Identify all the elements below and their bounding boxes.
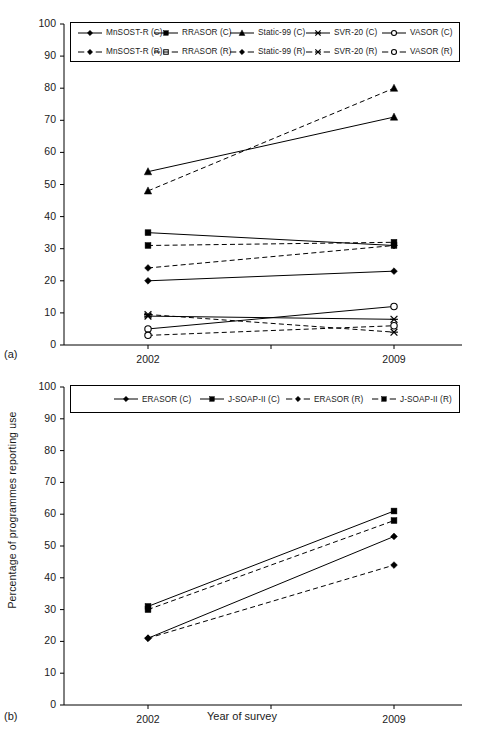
legend-symbol-square-open	[153, 46, 179, 58]
data-point-circle	[392, 30, 397, 35]
legend-label: J-SOAP-II (C)	[228, 395, 280, 404]
series-line-mnsost-r-c	[148, 271, 394, 281]
legend-symbol-triangle	[229, 27, 255, 39]
data-point-diamond	[145, 635, 152, 642]
data-point-circle	[145, 332, 151, 338]
data-point-square	[391, 239, 397, 245]
legend-symbol-cross	[305, 46, 331, 58]
data-point-diamond	[239, 49, 244, 54]
series-line-j-soap-ii-c	[148, 511, 394, 606]
legend-item-svr-20-c: SVR-20 (C)	[305, 27, 381, 39]
data-point-triangle	[390, 84, 397, 91]
data-point-square-open	[164, 49, 169, 54]
series-line-static-99-r	[148, 88, 394, 191]
legend-item-static-99-r: Static-99 (R)	[229, 46, 305, 58]
panel-b-legend: ERASOR (C)J-SOAP-II (C)ERASOR (R)J-SOAP-…	[70, 385, 460, 413]
series-line-vasor-r	[148, 326, 394, 336]
legend-item-j-soap-ii-r: J-SOAP-II (R)	[371, 393, 457, 405]
panel-a-tag: (a)	[4, 348, 17, 360]
data-point-diamond	[123, 396, 128, 401]
data-point-diamond	[145, 277, 152, 284]
series-line-mnsost-r-r	[148, 245, 394, 267]
legend-item-mnsost-r-r: MnSOST-R (R)	[77, 46, 153, 58]
legend-item-j-soap-ii-c: J-SOAP-II (C)	[199, 393, 285, 405]
legend-label: VASOR (C)	[410, 28, 453, 37]
legend-symbol-diamond	[229, 46, 255, 58]
series-line-static-99-c	[148, 117, 394, 172]
legend-symbol-square	[371, 393, 397, 405]
legend-item-rrasor-c: RRASOR (C)	[153, 27, 229, 39]
legend-item-svr-20-r: SVR-20 (R)	[305, 46, 381, 58]
data-point-circle	[391, 323, 397, 329]
data-point-square	[391, 518, 397, 524]
data-point-triangle	[144, 187, 151, 194]
data-point-circle	[145, 326, 151, 332]
series-line-erasor-c	[148, 536, 394, 638]
legend-label: RRASOR (R)	[182, 47, 232, 56]
data-point-circle	[391, 303, 397, 309]
legend-item-erasor-r: ERASOR (R)	[285, 393, 371, 405]
data-point-diamond	[145, 265, 152, 272]
data-point-square	[145, 230, 151, 236]
data-point-square	[210, 397, 215, 402]
data-point-diamond	[295, 396, 300, 401]
legend-symbol-square	[153, 27, 179, 39]
data-point-cross	[390, 329, 398, 336]
legend-symbol-cross	[305, 27, 331, 39]
legend-row: MnSOST-R (C)RRASOR (C)Static-99 (C)SVR-2…	[71, 23, 459, 42]
data-point-diamond	[87, 30, 92, 35]
data-point-cross	[390, 316, 398, 323]
legend-item-static-99-c: Static-99 (C)	[229, 27, 305, 39]
legend-item-mnsost-r-c: MnSOST-R (C)	[77, 27, 153, 39]
data-point-diamond	[87, 49, 92, 54]
legend-label: RRASOR (C)	[182, 28, 232, 37]
data-point-square	[145, 243, 151, 249]
legend-symbol-diamond	[285, 393, 311, 405]
legend-symbol-diamond	[77, 46, 103, 58]
figure-root: Percentage of programmes reporting use 0…	[0, 0, 484, 735]
legend-label: Static-99 (R)	[258, 47, 305, 56]
legend-label: ERASOR (C)	[142, 395, 191, 404]
data-point-square	[164, 30, 169, 35]
chart-panel-a: Percentage of programmes reporting use 0…	[0, 0, 484, 370]
legend-item-erasor-c: ERASOR (C)	[113, 393, 199, 405]
legend-label: SVR-20 (R)	[334, 47, 377, 56]
legend-label: J-SOAP-II (R)	[400, 395, 452, 404]
legend-symbol-square	[199, 393, 225, 405]
data-point-diamond	[391, 268, 398, 275]
legend-row: ERASOR (C)J-SOAP-II (C)ERASOR (R)J-SOAP-…	[71, 386, 459, 412]
data-point-circle	[392, 49, 397, 54]
series-line-svr-20-r	[148, 315, 394, 333]
x-axis-title: Year of survey	[0, 710, 484, 722]
legend-symbol-diamond	[113, 393, 139, 405]
data-point-diamond	[391, 562, 398, 569]
legend-item-vasor-c: VASOR (C)	[381, 27, 457, 39]
data-point-diamond	[391, 533, 398, 540]
data-point-cross	[315, 30, 321, 35]
series-line-vasor-c	[148, 306, 394, 328]
data-point-cross	[315, 49, 321, 54]
series-line-erasor-r	[148, 565, 394, 638]
legend-label: VASOR (R)	[410, 47, 453, 56]
legend-row: MnSOST-R (R)RRASOR (R)Static-99 (R)SVR-2…	[71, 42, 459, 61]
legend-item-rrasor-r: RRASOR (R)	[153, 46, 229, 58]
legend-label: Static-99 (C)	[258, 28, 305, 37]
data-point-square	[382, 397, 387, 402]
panel-b-plot-area	[0, 365, 484, 735]
chart-panel-b: Percentage of programmes reporting use 0…	[0, 365, 484, 735]
legend-item-vasor-r: VASOR (R)	[381, 46, 457, 58]
legend-label: SVR-20 (C)	[334, 28, 377, 37]
panel-a-legend: MnSOST-R (C)RRASOR (C)Static-99 (C)SVR-2…	[70, 22, 460, 62]
axis-lines	[64, 24, 462, 345]
legend-symbol-circle	[381, 46, 407, 58]
data-point-triangle	[390, 113, 397, 120]
data-point-square	[391, 508, 397, 514]
data-point-square	[145, 607, 151, 613]
series-line-j-soap-ii-r	[148, 521, 394, 610]
legend-symbol-circle	[381, 27, 407, 39]
legend-symbol-diamond	[77, 27, 103, 39]
axis-lines	[64, 387, 462, 705]
legend-label: ERASOR (R)	[314, 395, 363, 404]
